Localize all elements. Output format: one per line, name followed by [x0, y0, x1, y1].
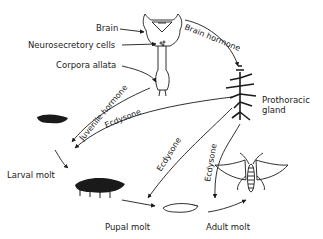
- brain-illustration: [143, 14, 182, 96]
- label-ecdysone-pupal: Ecdysone: [155, 136, 183, 173]
- label-prothoracic: Prothoracic: [262, 95, 310, 105]
- label-brain: Brain: [96, 23, 118, 33]
- label-gland: gland: [262, 105, 286, 115]
- label-brain-hormone: Brain hormone: [183, 23, 241, 54]
- label-pupal-molt: Pupal molt: [105, 222, 150, 232]
- label-juvenile-hormone: Juvenile hormone: [77, 83, 129, 143]
- label-corpora-allata: Corpora allata: [56, 60, 116, 70]
- larva-large-illustration: [75, 178, 125, 198]
- diagram-canvas: Brain hormone Juvenile hormone Ecdysone …: [0, 0, 323, 239]
- label-adult-molt: Adult molt: [206, 222, 250, 232]
- adult-moth-illustration: [215, 153, 288, 192]
- larva-small-illustration: [37, 114, 68, 123]
- pupa-illustration: [163, 204, 198, 213]
- label-neurosecretory-cells: Neurosecretory cells: [28, 40, 115, 50]
- label-larval-molt: Larval molt: [7, 170, 55, 180]
- prothoracic-gland-illustration: [226, 66, 256, 120]
